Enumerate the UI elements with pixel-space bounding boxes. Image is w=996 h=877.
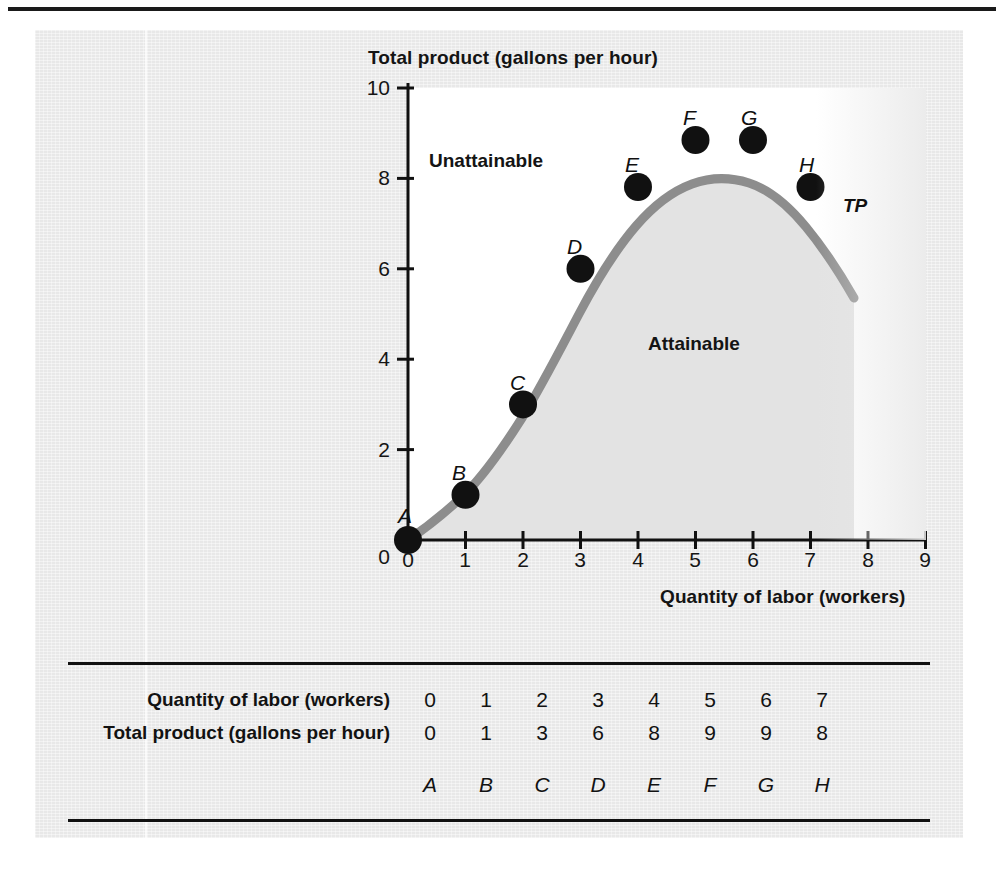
y-tick-label-6: 6	[360, 257, 390, 281]
table-row-header-total-product: Total product (gallons per hour)	[68, 722, 402, 744]
y-axis-title: Total product (gallons per hour)	[368, 47, 658, 69]
x-tick-label-8: 8	[854, 548, 882, 572]
data-point-b	[452, 481, 480, 509]
page-top-rule	[8, 7, 996, 11]
x-tick-label-2: 2	[509, 548, 537, 572]
table-cell: 6	[738, 688, 794, 712]
data-point-e	[624, 173, 652, 201]
unattainable-region-label: Unattainable	[429, 150, 543, 172]
table-bottom-rule	[68, 819, 930, 822]
x-tick-label-0: 0	[394, 548, 422, 572]
point-label-e: E	[625, 153, 639, 177]
y-tick-label-4: 4	[360, 347, 390, 371]
x-tick-label-7: 7	[796, 548, 824, 572]
point-label-a: A	[398, 504, 412, 528]
table-cell: 4	[626, 688, 682, 712]
table-cell-letter: B	[458, 773, 514, 797]
table-cell-letter: G	[738, 773, 794, 797]
table-cell: 7	[794, 688, 850, 712]
data-point-f	[682, 126, 710, 154]
table-cell-letter: H	[794, 773, 850, 797]
x-tick-label-1: 1	[451, 548, 479, 572]
table-cell: 8	[626, 721, 682, 745]
x-tick-label-3: 3	[566, 548, 594, 572]
y-tick-label-2: 2	[360, 438, 390, 462]
table-row-labor: Quantity of labor (workers) 0 1 2 3 4 5 …	[68, 683, 930, 716]
table-cell: 3	[514, 721, 570, 745]
point-label-g: G	[741, 106, 757, 130]
point-label-c: C	[510, 371, 525, 395]
point-label-d: D	[567, 235, 582, 259]
table-cell-letter: C	[514, 773, 570, 797]
table-cell: 0	[402, 688, 458, 712]
table-cell: 2	[514, 688, 570, 712]
x-tick-label-6: 6	[739, 548, 767, 572]
table-cell: 9	[682, 721, 738, 745]
attainable-region-label: Attainable	[648, 333, 740, 355]
table-cell: 6	[570, 721, 626, 745]
tp-curve-label: TP	[843, 195, 867, 217]
data-table: Quantity of labor (workers) 0 1 2 3 4 5 …	[68, 662, 930, 822]
table-bottom-rule-wrap	[68, 819, 930, 822]
point-label-f: F	[683, 106, 696, 130]
table-cell: 1	[458, 688, 514, 712]
x-tick-label-9: 9	[911, 548, 939, 572]
x-tick-label-4: 4	[624, 548, 652, 572]
table-cell: 5	[682, 688, 738, 712]
table-cell-letter: A	[402, 773, 458, 797]
table-cell-letter: F	[682, 773, 738, 797]
table-cell: 1	[458, 721, 514, 745]
data-point-h	[797, 173, 825, 201]
table-row-total-product: Total product (gallons per hour) 0 1 3 6…	[68, 716, 930, 749]
data-point-g	[739, 126, 767, 154]
y-tick-label-8: 8	[360, 166, 390, 190]
table-row-header-labor: Quantity of labor (workers)	[68, 689, 402, 711]
table-cell: 9	[738, 721, 794, 745]
table-cell-letter: D	[570, 773, 626, 797]
point-label-h: H	[799, 153, 814, 177]
table-cell: 0	[402, 721, 458, 745]
table-row-point-letters: A B C D E F G H	[68, 768, 930, 801]
data-point-d	[567, 255, 595, 283]
y-tick-label-10: 10	[360, 76, 390, 100]
y-tick-label-0: 0	[360, 545, 390, 569]
table-cell-letter: E	[626, 773, 682, 797]
table-cell: 8	[794, 721, 850, 745]
x-axis-title: Quantity of labor (workers)	[660, 586, 906, 608]
x-tick-label-5: 5	[681, 548, 709, 572]
point-label-b: B	[452, 461, 466, 485]
table-cell: 3	[570, 688, 626, 712]
table-top-rule	[68, 662, 930, 665]
